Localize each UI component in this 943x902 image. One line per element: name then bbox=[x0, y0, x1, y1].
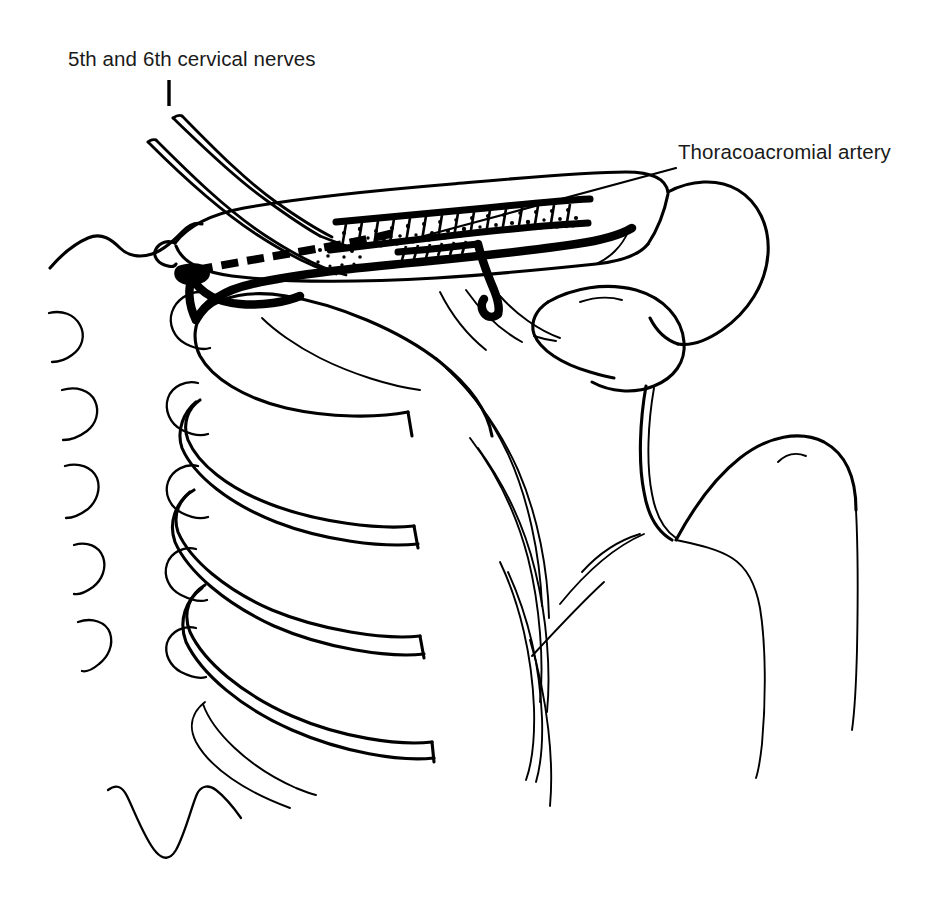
canvas-background bbox=[0, 0, 943, 902]
anatomy-drawing-canvas: 5th and 6th cervical nerves Thoracoacrom… bbox=[0, 0, 943, 902]
thoracoacromial-artery-label-text: Thoracoacromial artery bbox=[678, 140, 892, 163]
anatomical-figure: 5th and 6th cervical nerves Thoracoacrom… bbox=[0, 0, 943, 902]
cervical-nerves-label-text: 5th and 6th cervical nerves bbox=[68, 47, 316, 70]
rib-4-costal-joint bbox=[432, 742, 434, 762]
